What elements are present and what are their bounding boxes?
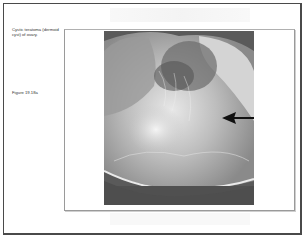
figure-number-label: Figure 19.18a: [12, 90, 38, 95]
faded-title-placeholder: [110, 8, 250, 22]
faded-footer-placeholder: [110, 213, 250, 225]
pointer-arrow-icon: [222, 111, 254, 125]
figure-caption: Cystic teratoma (dermoid cyst) of ovary.: [12, 27, 64, 37]
